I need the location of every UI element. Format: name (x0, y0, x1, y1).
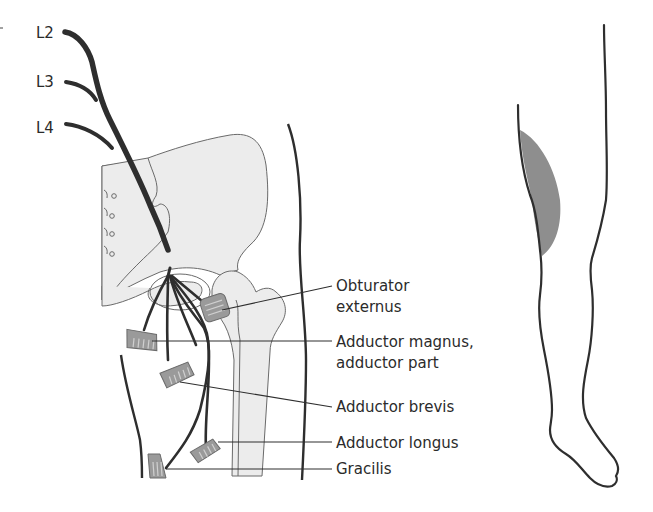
root-label-l3: L3 (36, 73, 54, 91)
sensory-area-shaded (520, 130, 560, 256)
root-label-l2: L2 (36, 24, 54, 42)
label-adductor-longus: Adductor longus (336, 434, 459, 452)
diagram-canvas: L2 L3 L4 Obturator externus Adductor mag… (0, 0, 653, 512)
muscle-labels: Obturator externus Adductor magnus, addu… (336, 277, 474, 478)
root-label-l4: L4 (36, 119, 54, 137)
label-adductor-magnus-1: Adductor magnus, (336, 333, 474, 351)
label-adductor-magnus-2: adductor part (336, 354, 439, 372)
label-adductor-brevis: Adductor brevis (336, 398, 454, 416)
label-obturator-externus-2: externus (336, 298, 402, 316)
nerve-root-labels: L2 L3 L4 (36, 24, 54, 137)
gracilis-stump (148, 454, 166, 478)
adductor-brevis-stump (159, 361, 195, 388)
label-gracilis: Gracilis (336, 460, 392, 478)
label-obturator-externus-1: Obturator (336, 277, 410, 295)
leg-figure (518, 25, 618, 487)
adductor-magnus-stump (125, 329, 159, 350)
